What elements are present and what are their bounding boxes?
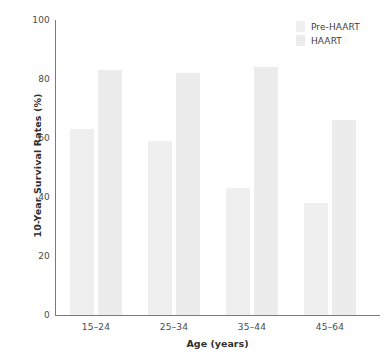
bar — [70, 129, 94, 315]
y-axis-tick-text: 60 — [28, 133, 50, 143]
legend-label: HAART — [311, 36, 342, 46]
bar — [226, 188, 250, 315]
bar — [148, 141, 172, 315]
x-axis-tick-label: 15–24 — [61, 322, 131, 332]
y-axis-tick-label: 100 — [28, 15, 50, 25]
y-axis-title: 10-Year Survival Rates (%) — [32, 66, 43, 266]
bar-group — [148, 20, 200, 315]
y-axis-tick-text: 100 — [28, 15, 50, 25]
legend-item: Pre-HAART — [296, 20, 385, 33]
legend-swatch-icon — [296, 35, 305, 46]
bar-group — [304, 20, 356, 315]
y-axis-tick-label: 80 — [28, 74, 50, 84]
x-axis-tick-label: 45–64 — [295, 322, 365, 332]
bar — [304, 203, 328, 315]
bar-group — [70, 20, 122, 315]
legend-swatch-icon — [296, 21, 305, 32]
y-axis-tick-text: 0 — [28, 310, 50, 320]
bar — [254, 67, 278, 315]
legend-label: Pre-HAART — [311, 22, 360, 32]
bar — [332, 120, 356, 315]
x-axis-title: Age (years) — [55, 338, 380, 349]
y-axis-tick-label: 60 — [28, 133, 50, 143]
y-axis-tick-text: 20 — [28, 251, 50, 261]
x-axis-tick-label: 35–44 — [217, 322, 287, 332]
y-axis-tick-label: 40 — [28, 192, 50, 202]
x-axis-tick-label: 25–34 — [139, 322, 209, 332]
chart-legend: Pre-HAARTHAART — [296, 20, 385, 48]
y-axis-tick-text: 80 — [28, 74, 50, 84]
y-axis-tick-label: 0 — [28, 310, 50, 320]
bar — [176, 73, 200, 315]
bar-chart: 10-Year Survival Rates (%) 020406080100 … — [0, 0, 385, 358]
y-axis-tick-label: 20 — [28, 251, 50, 261]
y-axis-tick-text: 40 — [28, 192, 50, 202]
legend-item: HAART — [296, 34, 385, 47]
bar — [98, 70, 122, 315]
bar-group — [226, 20, 278, 315]
x-axis-line — [55, 315, 380, 316]
plot-area — [56, 20, 380, 315]
